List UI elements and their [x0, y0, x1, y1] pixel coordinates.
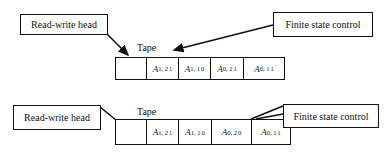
tape-cell: A1, 10 [179, 58, 211, 79]
fsc-arrow [174, 25, 273, 50]
finite-state-control-label: Finite state control [273, 12, 373, 37]
tape-cell: A1, 10 [179, 120, 212, 144]
tape-cell [116, 120, 147, 144]
tape-label: Tape [137, 106, 156, 117]
tape-cell: A0, 21 [211, 58, 244, 79]
tape: A1, 21 A1, 10 A0, 21 A0, 11 [115, 57, 285, 80]
read-write-head-label: Read-write head [20, 14, 108, 35]
tape-cell [116, 58, 147, 79]
rw-head-connector [100, 107, 116, 120]
tape-cell: A0, 11 [244, 58, 284, 79]
rw-head-arrow [106, 33, 128, 55]
tape-cell: A1, 21 [147, 120, 179, 144]
tape-label: Tape [137, 42, 156, 53]
read-write-head-label: Read-write head [13, 105, 101, 130]
finite-state-control-label: Finite state control [283, 104, 379, 128]
tape-cell: A1, 21 [147, 58, 179, 79]
tape: A1, 21 A1, 10 A0, 20 A0, 11 [115, 119, 291, 145]
tape-cell: A0, 20 [212, 120, 252, 144]
